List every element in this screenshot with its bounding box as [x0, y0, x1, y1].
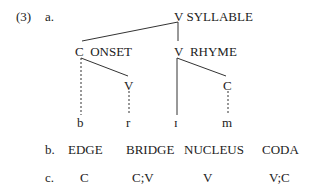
segment: r	[126, 116, 130, 129]
feature-value: C;V	[132, 171, 154, 184]
position-label: NUCLEUS	[184, 143, 244, 156]
feature-value: V;C	[269, 171, 290, 184]
segment: ɪ	[174, 116, 178, 129]
position-label: BRIDGE	[126, 143, 174, 156]
segment: b	[77, 116, 84, 129]
branch-rhyme-c	[177, 58, 226, 76]
segment: m	[222, 116, 232, 129]
part-c-label: c.	[45, 171, 54, 184]
branch-syllable-onset	[82, 22, 178, 41]
tree-lines	[0, 0, 314, 194]
position-label: CODA	[262, 143, 299, 156]
branch-onset-v	[81, 58, 128, 76]
position-label: EDGE	[68, 143, 103, 156]
part-b-label: b.	[45, 143, 55, 156]
feature-value: C	[80, 171, 89, 184]
feature-value: V	[203, 171, 212, 184]
